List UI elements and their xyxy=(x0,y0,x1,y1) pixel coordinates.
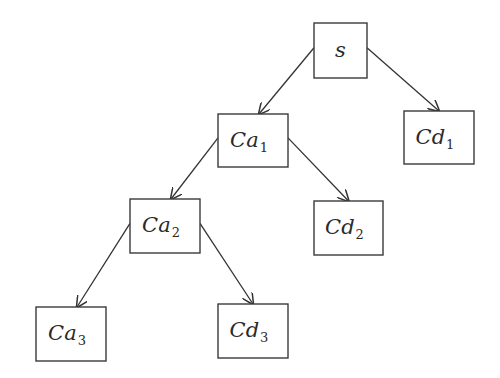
node-Cd2: Cd2 xyxy=(314,201,383,255)
node-Ca3: Ca3 xyxy=(36,307,106,361)
node-Cd1: Cd1 xyxy=(404,111,474,164)
node-Cd3: Cd3 xyxy=(218,304,288,358)
edge-Ca2-Cd3 xyxy=(200,223,253,304)
edge-Ca1-Cd2 xyxy=(288,138,349,201)
edge-s-Ca1 xyxy=(259,48,314,114)
node-s: s xyxy=(314,23,367,78)
nodes: sCa1Cd1Ca2Cd2Ca3Cd3 xyxy=(36,23,474,361)
edge-Ca2-Ca3 xyxy=(77,223,130,307)
edges xyxy=(77,48,439,307)
tree-diagram: sCa1Cd1Ca2Cd2Ca3Cd3 xyxy=(0,0,500,378)
node-Ca2: Ca2 xyxy=(130,199,200,253)
edge-s-Cd1 xyxy=(367,48,439,111)
node-label: s xyxy=(335,38,346,62)
edge-Ca1-Ca2 xyxy=(171,138,218,199)
node-Ca1: Ca1 xyxy=(218,114,288,167)
